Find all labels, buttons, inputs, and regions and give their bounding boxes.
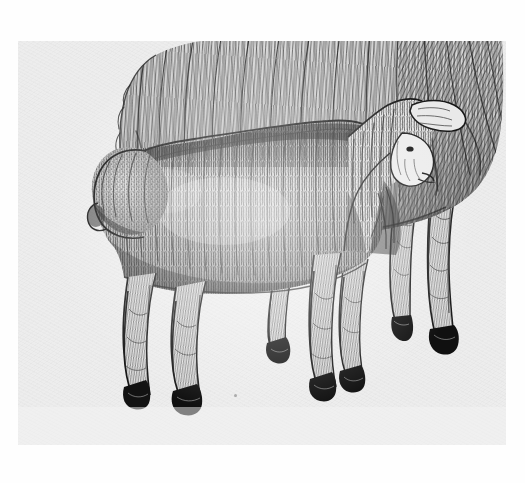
adult-sheep-hoof-left xyxy=(391,315,413,341)
artwork-root: Lamb and Ewe A young lamb standing in fr… xyxy=(0,0,525,483)
artwork-technique: hatching and stippling xyxy=(0,0,1,1)
artwork-medium: pen-and-ink drawing xyxy=(0,0,1,1)
ground-tone xyxy=(18,407,506,445)
lamb-eye xyxy=(406,146,413,151)
lamb-hind-leg-second xyxy=(164,277,212,415)
adult-sheep-hoof-right xyxy=(429,325,459,355)
artwork-signature xyxy=(0,0,1,1)
pen-and-ink-drawing xyxy=(18,41,506,445)
figure-lamb-description: Young lamb standing broadside, head turn… xyxy=(0,0,1,1)
artwork-caption xyxy=(0,0,1,1)
lamb-hind-leg-near xyxy=(116,267,162,410)
scanned-paper-panel xyxy=(18,41,506,445)
figure-adult-sheep-description: Heavy-fleeced ewe seen from the side, bo… xyxy=(0,0,1,1)
artwork-title: Lamb and Ewe xyxy=(0,0,1,1)
artwork-subject: A young lamb standing in front of a full… xyxy=(0,0,1,1)
